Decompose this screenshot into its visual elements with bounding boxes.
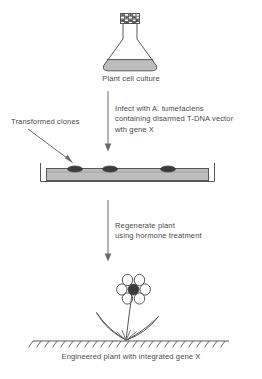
culture-tray-icon [41, 163, 215, 182]
gene-symbol: X [149, 125, 154, 134]
infect-line3-prefix: wth gene [115, 125, 149, 134]
regenerate-line1: Regenerate plant [115, 221, 175, 230]
transformation-figure: Plant cell culture Transformed clones In… [0, 0, 262, 379]
regenerate-step-text: Regenerate plant using hormone treatment [115, 221, 245, 242]
gene-symbol: X [195, 352, 200, 361]
infect-line2: containing disarmed T-DNA vector [115, 114, 233, 123]
down-arrow-icon [105, 91, 112, 152]
flower-icon [117, 274, 151, 304]
flask-stopper-icon [121, 14, 140, 24]
ground-hatching-icon [29, 341, 230, 348]
species-name: A. tumefaciens [152, 104, 204, 113]
transformed-clones-label: Transformed clones [11, 117, 80, 127]
infect-step-text: Infect with A. tumefaciens containing di… [115, 104, 257, 135]
flask-caption: Plant cell culture [0, 74, 262, 84]
final-caption-prefix: Engineered plant with integrated gene [61, 352, 195, 361]
final-caption: Engineered plant with integrated gene X [0, 352, 262, 362]
pointer-arrow-icon [28, 129, 73, 164]
regenerate-line2: using hormone treatment [115, 231, 202, 240]
figure-graphics [0, 0, 262, 379]
erlenmeyer-flask-icon [103, 24, 156, 71]
down-arrow-icon [105, 200, 112, 262]
infect-line1-prefix: Infect with [115, 104, 152, 113]
